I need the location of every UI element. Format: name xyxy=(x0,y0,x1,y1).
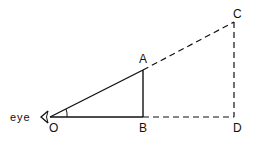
label-d: D xyxy=(233,121,242,135)
label-b: B xyxy=(139,121,147,135)
label-c: C xyxy=(233,7,242,21)
segment-ac-dashed xyxy=(143,22,234,70)
angle-arc-o xyxy=(66,109,67,117)
similar-triangles-diagram: eye O A B C D xyxy=(0,0,254,143)
label-o: O xyxy=(49,121,58,135)
label-eye: eye xyxy=(10,111,31,123)
segment-oa xyxy=(50,70,143,117)
eye-icon-lens xyxy=(47,111,49,123)
label-a: A xyxy=(139,52,147,66)
